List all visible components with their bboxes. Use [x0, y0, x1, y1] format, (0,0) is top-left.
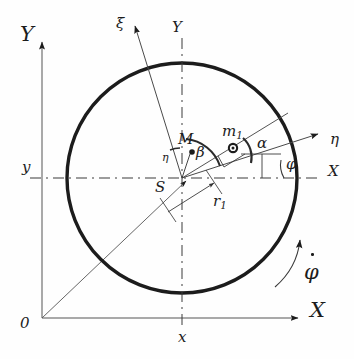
angle-beta-label: β	[196, 145, 205, 160]
phi-dot-accent	[311, 253, 314, 256]
r1-arrow-line	[168, 183, 214, 212]
xi-axis-label: ξ	[116, 16, 124, 31]
mass-m1-subscript: 1	[236, 130, 242, 141]
point-M-marker	[189, 149, 195, 155]
mass-m1-label: m1	[222, 124, 243, 141]
angle-phi-label: φ	[286, 157, 297, 172]
eta-small-arc	[170, 148, 180, 150]
point-m1-marker	[228, 143, 238, 153]
rotor-y-axis-label: Y	[172, 20, 182, 35]
radius-r1-subscript: 1	[220, 200, 226, 211]
position-vector-os	[42, 181, 186, 318]
r1-tick-start	[160, 198, 176, 222]
angle-eta-small-label: η	[162, 152, 169, 163]
line-center-to-mass-center	[182, 154, 190, 178]
xi-axis-line	[135, 26, 182, 178]
rotor-x-axis-label: X	[328, 164, 339, 179]
phi-construction	[241, 154, 281, 178]
global-axes	[42, 42, 298, 318]
alpha-arc	[243, 138, 252, 163]
mass-m1-base: m	[222, 122, 236, 140]
angular-velocity-symbol: φ	[304, 260, 319, 284]
global-y-axis-label: Y	[20, 24, 34, 45]
origin-label: 0	[20, 316, 30, 331]
eta-axis-label: η	[330, 132, 339, 147]
r1-tick-end	[206, 170, 222, 194]
phi-arc	[281, 160, 284, 178]
coord-y-label: y	[22, 160, 30, 175]
diagram-canvas: Y X 0 x y Y X ξ η S M m1 r1 α β η φ φ	[0, 0, 354, 359]
global-x-axis-label: X	[310, 300, 325, 321]
point-M-label: M	[178, 132, 193, 147]
coord-x-label: x	[178, 330, 186, 345]
rotation-direction-arc	[275, 240, 300, 287]
rotor-reference-axes	[30, 38, 322, 330]
radius-r1-label: r1	[213, 194, 227, 211]
angular-velocity-label: φ	[304, 262, 319, 283]
center-S-label: S	[155, 180, 165, 195]
angle-alpha-label: α	[257, 136, 267, 151]
diagram-svg	[0, 0, 354, 359]
